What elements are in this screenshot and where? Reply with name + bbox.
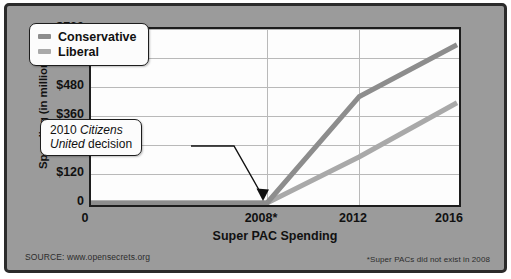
x-tick-2012: 2012 [339, 211, 367, 225]
footnote-text: *Super PACs did not exist in 2008 [367, 255, 490, 264]
source-text: SOURCE: www.opensecrets.org [25, 252, 150, 262]
x-tick-0: 0 [82, 211, 89, 225]
x-tick-2008: 2008* [245, 211, 278, 225]
citizens-united-callout: 2010 Citizens United decision [40, 119, 142, 156]
legend-swatch-conservative [38, 34, 51, 39]
legend-label-conservative: Conservative [58, 30, 137, 44]
legend-item-liberal: Liberal [38, 44, 137, 59]
legend-swatch-liberal [38, 49, 51, 54]
y-tick-120: $120 [28, 166, 84, 178]
x-tick-2016: 2016 [435, 211, 463, 225]
y-tick-480: $480 [28, 79, 84, 91]
legend-label-liberal: Liberal [58, 45, 99, 59]
callout-line-2-italic: United [50, 137, 85, 151]
callout-line-1-italic: Citizens [80, 123, 123, 137]
chart-figure: Spending (in millions) $720 $600 $480 $3… [0, 0, 511, 279]
x-axis-tick-labels: 0 2008* 2012 2016 [7, 211, 511, 229]
callout-line-1-prefix: 2010 [50, 123, 80, 137]
callout-line-2: United decision [50, 137, 132, 151]
callout-line-2-suffix: decision [85, 137, 132, 151]
chart-legend: Conservative Liberal [29, 23, 149, 66]
y-tick-0: 0 [28, 195, 84, 207]
chart-frame: Spending (in millions) $720 $600 $480 $3… [4, 3, 507, 273]
callout-line-1: 2010 Citizens [50, 123, 132, 137]
x-axis-title: Super PAC Spending [89, 229, 461, 243]
legend-item-conservative: Conservative [38, 29, 137, 44]
